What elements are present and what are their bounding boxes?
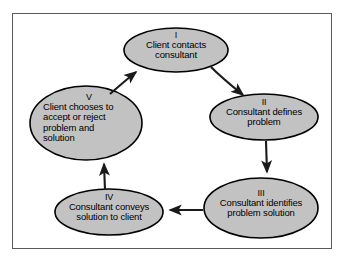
node-ellipse-4 [55, 189, 163, 235]
node-ellipse-3 [204, 178, 318, 238]
arrow-5-to-1 [110, 72, 136, 94]
arrow-4-to-5 [104, 164, 105, 190]
node-ellipse-2 [210, 94, 318, 140]
node-ellipse-5 [30, 86, 142, 160]
arrow-2-to-3 [266, 141, 267, 172]
flow-graphics [0, 0, 346, 268]
arrow-1-to-2 [211, 67, 243, 95]
node-ellipse-1 [124, 28, 228, 72]
process-cycle-diagram: I Client contacts consultant II Consulta… [0, 0, 346, 268]
